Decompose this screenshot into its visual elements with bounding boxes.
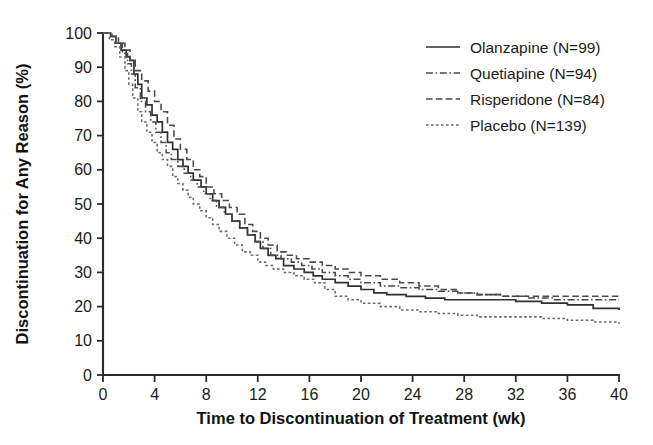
x-tick-label-28: 28 bbox=[455, 386, 473, 403]
y-tick-label-0: 0 bbox=[83, 367, 92, 384]
km-survival-chart: 0102030405060708090100 04812162024283236… bbox=[0, 0, 653, 445]
x-tick-label-4: 4 bbox=[150, 386, 159, 403]
chart-figure: 0102030405060708090100 04812162024283236… bbox=[0, 0, 653, 445]
x-tick-label-16: 16 bbox=[301, 386, 319, 403]
x-tick-label-20: 20 bbox=[352, 386, 370, 403]
x-tick-label-24: 24 bbox=[404, 386, 422, 403]
y-tick-label-50: 50 bbox=[74, 196, 92, 213]
y-tick-label-80: 80 bbox=[74, 93, 92, 110]
legend-label-risperidone: Risperidone (N=84) bbox=[470, 91, 605, 108]
legend-label-placebo: Placebo (N=139) bbox=[470, 117, 587, 134]
y-tick-label-20: 20 bbox=[74, 298, 92, 315]
x-tick-label-40: 40 bbox=[610, 386, 628, 403]
y-tick-label-90: 90 bbox=[74, 59, 92, 76]
y-tick-label-30: 30 bbox=[74, 264, 92, 281]
legend-label-quetiapine: Quetiapine (N=94) bbox=[470, 65, 597, 82]
y-tick-label-10: 10 bbox=[74, 332, 92, 349]
x-tick-label-8: 8 bbox=[202, 386, 211, 403]
x-tick-label-0: 0 bbox=[99, 386, 108, 403]
y-axis-title: Discontinuation for Any Reason (%) bbox=[13, 64, 31, 345]
x-axis-title: Time to Discontinuation of Treatment (wk… bbox=[197, 409, 526, 427]
x-tick-label-36: 36 bbox=[559, 386, 577, 403]
y-tick-label-40: 40 bbox=[74, 230, 92, 247]
y-tick-label-100: 100 bbox=[65, 25, 92, 42]
y-tick-label-60: 60 bbox=[74, 161, 92, 178]
legend-label-olanzapine: Olanzapine (N=99) bbox=[470, 39, 601, 56]
x-tick-label-32: 32 bbox=[507, 386, 525, 403]
y-tick-label-70: 70 bbox=[74, 127, 92, 144]
x-tick-label-12: 12 bbox=[249, 386, 267, 403]
